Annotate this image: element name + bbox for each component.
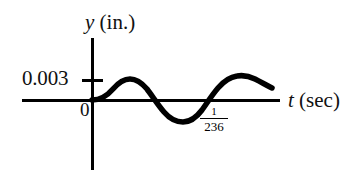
y-axis-variable: y <box>85 10 94 34</box>
x-tick-label-fraction: 1 236 <box>200 106 228 133</box>
axes-group <box>22 38 280 170</box>
x-axis-unit: (sec) <box>299 88 340 112</box>
fraction-numerator: 1 <box>200 106 228 118</box>
origin-label: 0 <box>80 100 90 119</box>
y-axis-label: y (in.) <box>85 12 135 33</box>
fraction-denominator: 236 <box>200 119 228 133</box>
y-axis-unit: (in.) <box>100 10 136 34</box>
sine-wave-curve <box>92 76 272 122</box>
y-tick-label-0003: 0.003 <box>22 68 68 89</box>
sine-curve-group <box>92 76 272 122</box>
sine-wave-figure: y (in.) t (sec) 0.003 0 1 236 <box>0 0 355 174</box>
x-axis-label: t (sec) <box>288 90 340 111</box>
